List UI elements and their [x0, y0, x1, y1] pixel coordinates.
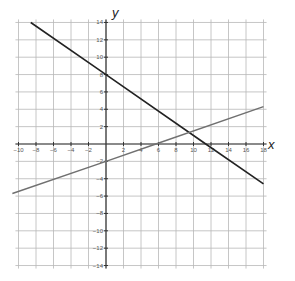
x-tick-label: 2: [122, 147, 126, 153]
x-tick-label: −2: [85, 147, 93, 153]
x-tick-label: 10: [190, 147, 197, 153]
x-tick-label: 14: [225, 147, 232, 153]
y-tick-label: 10: [96, 54, 103, 60]
y-axis-label: y: [111, 5, 120, 20]
coordinate-plane: −10−8−6−4−224681012141618−14−12−10−8−6−4…: [0, 0, 295, 281]
y-tick-label: −10: [93, 228, 104, 234]
x-tick-label: 6: [157, 147, 161, 153]
x-tick-label: −8: [33, 147, 41, 153]
x-axis-label: x: [267, 137, 275, 152]
y-tick-label: −14: [93, 263, 104, 269]
y-tick-label: 14: [96, 19, 103, 25]
x-tick-label: 18: [260, 147, 267, 153]
y-tick-label: 12: [96, 37, 103, 43]
series-lines: [12, 22, 263, 193]
y-tick-label: −8: [96, 210, 104, 216]
x-tick-label: −6: [50, 147, 58, 153]
y-tick-label: −4: [96, 176, 104, 182]
y-tick-label: −6: [96, 193, 104, 199]
x-tick-label: 8: [174, 147, 178, 153]
x-tick-label: 16: [243, 147, 250, 153]
x-tick-label: −10: [13, 147, 24, 153]
x-tick-label: −4: [68, 147, 76, 153]
y-tick-label: −12: [93, 245, 104, 251]
